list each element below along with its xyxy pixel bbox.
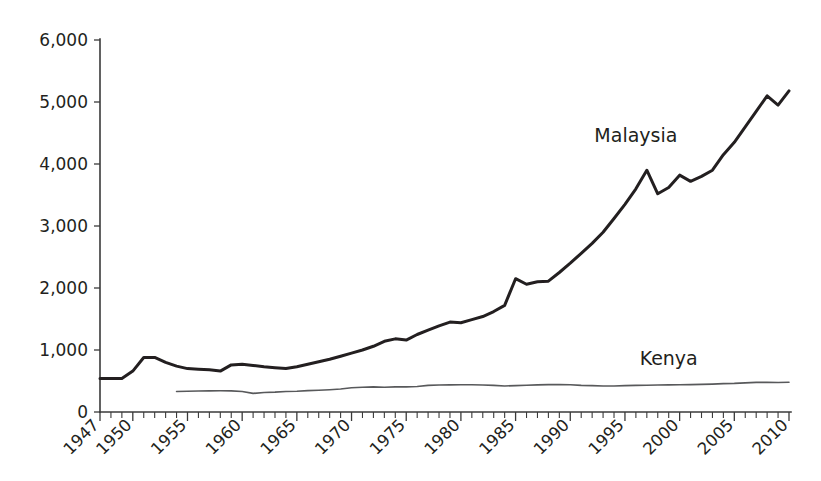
- x-axis: 1947195019551960196519701975198019851990…: [60, 412, 792, 459]
- x-tick-label: 1975: [366, 415, 409, 458]
- x-tick-label: 1965: [257, 415, 300, 458]
- series-line-kenya: [177, 382, 789, 393]
- x-tick-label: 1985: [475, 415, 518, 458]
- line-chart: 01,0002,0003,0004,0005,0006,000 19471950…: [0, 0, 821, 481]
- x-tick-label: 1980: [421, 415, 464, 458]
- x-tick-label: 1950: [93, 415, 136, 458]
- y-tick-label: 1,000: [39, 340, 88, 360]
- y-tick-label: 3,000: [39, 216, 88, 236]
- series-label-malaysia: Malaysia: [594, 124, 677, 146]
- chart-container: 01,0002,0003,0004,0005,0006,000 19471950…: [0, 0, 821, 481]
- x-tick-label: 1990: [530, 415, 573, 458]
- y-tick-label: 6,000: [39, 30, 88, 50]
- series-labels: MalaysiaKenya: [594, 124, 697, 369]
- y-tick-label: 5,000: [39, 92, 88, 112]
- series-label-kenya: Kenya: [640, 347, 698, 369]
- x-tick-label: 2000: [639, 415, 682, 458]
- y-tick-label: 4,000: [39, 154, 88, 174]
- x-tick-label: 1970: [311, 415, 354, 458]
- series-line-malaysia: [100, 91, 789, 379]
- x-tick-label: 1955: [147, 415, 190, 458]
- x-tick-label: 2005: [694, 415, 737, 458]
- y-tick-label: 2,000: [39, 278, 88, 298]
- y-axis: 01,0002,0003,0004,0005,0006,000: [39, 30, 100, 422]
- x-tick-label: 1995: [585, 415, 628, 458]
- x-tick-label: 1960: [202, 415, 245, 458]
- x-tick-label: 2010: [749, 415, 792, 458]
